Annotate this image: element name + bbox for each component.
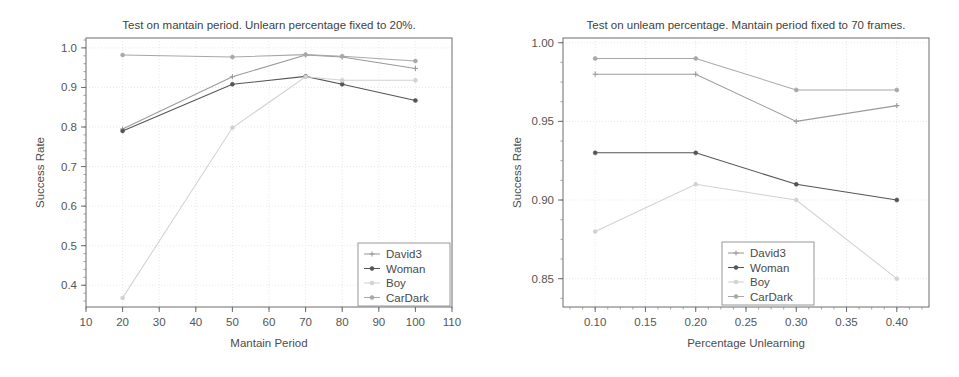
x-tick-label: 0.25 (735, 316, 757, 328)
legend-marker (370, 281, 374, 285)
data-point-marker (230, 55, 234, 59)
y-tick-label: 0.7 (61, 161, 77, 173)
data-point-marker (230, 82, 234, 86)
y-tick-label: 0.95 (532, 115, 554, 127)
data-point-marker (895, 88, 899, 92)
data-point-marker (340, 78, 344, 82)
figure-canvas: 1020304050607080901001100.40.50.60.70.80… (0, 0, 959, 377)
x-tick-label: 40 (189, 316, 202, 328)
data-point-marker (895, 277, 899, 281)
x-tick-label: 60 (263, 316, 276, 328)
y-tick-label: 0.8 (61, 121, 77, 133)
legend-label: Boy (750, 276, 770, 288)
y-tick-label: 0.4 (61, 279, 78, 291)
y-tick-label: 0.85 (532, 273, 554, 285)
x-tick-label: 0.30 (785, 316, 807, 328)
y-tick-label: 1.0 (61, 42, 77, 54)
x-tick-label: 80 (336, 316, 349, 328)
data-point-marker (694, 182, 698, 186)
data-point-marker (694, 56, 698, 60)
data-point-marker (304, 53, 308, 57)
left-panel: 1020304050607080901001100.40.50.60.70.80… (0, 0, 479, 377)
data-point-marker (593, 56, 597, 60)
data-point-marker (693, 72, 698, 77)
data-point-marker (340, 82, 344, 86)
data-point-marker (340, 54, 344, 58)
data-point-marker (304, 75, 308, 79)
legend-marker (734, 266, 738, 270)
y-tick-label: 0.9 (61, 81, 77, 93)
legend-label: CarDark (386, 292, 429, 304)
legend-marker (370, 267, 374, 271)
legend-label: CarDark (750, 291, 793, 303)
legend-marker (370, 296, 374, 300)
data-point-marker (413, 59, 417, 63)
data-point-marker (794, 88, 798, 92)
data-point-marker (413, 78, 417, 82)
data-point-marker (794, 198, 798, 202)
x-tick-label: 0.15 (634, 316, 656, 328)
y-tick-label: 0.90 (532, 194, 554, 206)
legend-label: Woman (750, 262, 789, 274)
legend-label: David3 (750, 247, 786, 259)
data-point-marker (593, 151, 597, 155)
y-tick-label: 0.6 (61, 200, 77, 212)
data-point-marker (794, 119, 799, 124)
data-point-marker (121, 296, 125, 300)
legend-label: Boy (386, 277, 406, 289)
x-tick-label: 0.10 (584, 316, 606, 328)
data-point-marker (895, 198, 899, 202)
right-panel: 0.100.150.200.250.300.350.400.850.900.95… (479, 0, 958, 377)
x-tick-label: 20 (116, 316, 129, 328)
data-point-marker (894, 103, 899, 108)
x-axis-label: Percentage Unlearning (687, 337, 805, 349)
x-tick-label: 0.40 (886, 316, 908, 328)
legend-label: Woman (386, 263, 425, 275)
data-point-marker (413, 66, 418, 71)
data-point-marker (694, 151, 698, 155)
y-tick-label: 1.00 (532, 37, 554, 49)
legend-label: David3 (386, 248, 422, 260)
y-tick-label: 0.5 (61, 240, 77, 252)
x-tick-label: 0.20 (685, 316, 707, 328)
chart-title: Test on mantain period. Unlearn percenta… (122, 19, 415, 31)
legend-marker (734, 295, 738, 299)
y-axis-label: Success Rate (511, 137, 523, 208)
data-point-marker (413, 99, 417, 103)
data-point-marker (593, 229, 597, 233)
data-point-marker (121, 129, 125, 133)
x-tick-label: 30 (153, 316, 166, 328)
x-tick-label: 100 (406, 316, 425, 328)
legend-marker (734, 280, 738, 284)
data-point-marker (794, 182, 798, 186)
x-tick-label: 10 (80, 316, 93, 328)
x-tick-label: 110 (443, 316, 461, 328)
y-axis-label: Success Rate (34, 137, 46, 208)
chart-title: Test on unleam percentage. Mantain perio… (587, 19, 906, 31)
chart-legend[interactable]: David3WomanBoyCarDark (358, 243, 450, 306)
x-axis-label: Mantain Period (230, 337, 307, 349)
data-point-marker (593, 72, 598, 77)
data-point-marker (230, 126, 234, 130)
data-point-marker (121, 53, 125, 57)
x-tick-label: 70 (299, 316, 312, 328)
x-tick-label: 0.35 (835, 316, 857, 328)
data-point-marker (230, 74, 235, 79)
chart-legend[interactable]: David3WomanBoyCarDark (722, 242, 814, 305)
x-tick-label: 50 (226, 316, 239, 328)
x-tick-label: 90 (372, 316, 385, 328)
